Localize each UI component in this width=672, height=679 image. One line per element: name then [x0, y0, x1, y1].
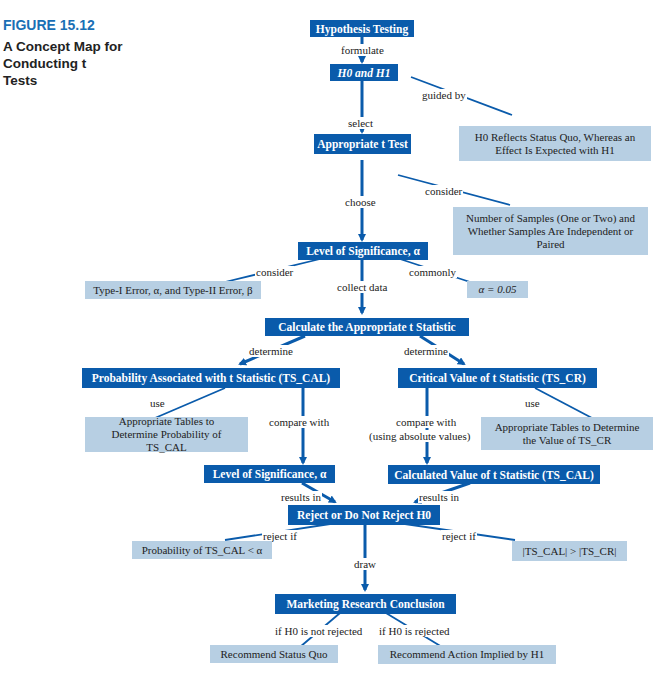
- edge-label-consider: consider: [424, 185, 463, 197]
- note-tables-value: Appropriate Tables to Determine the Valu…: [481, 417, 653, 450]
- edge-label-guided-by: guided by: [421, 89, 467, 101]
- edge-label-determine-left: determine: [248, 345, 294, 357]
- node-calculate-statistic: Calculate the Appropriate t Statistic: [265, 318, 469, 336]
- note-alpha-value: α = 0.05: [467, 281, 528, 298]
- connector-lines: [0, 0, 672, 679]
- note-tables-probability: Appropriate Tables to Determine Probabil…: [85, 417, 248, 452]
- node-appropriate-t-test: Appropriate t Test: [314, 134, 411, 154]
- edge-label-compare-with: compare with: [268, 416, 330, 428]
- edge-label-results-in-right: results in: [418, 491, 460, 503]
- note-status-quo-effect: H0 Reflects Status Quo, Whereas an Effec…: [459, 126, 651, 161]
- node-calculated-value: Calculated Value of t Statistic (TS_CAL): [388, 465, 600, 484]
- node-level-of-significance-2: Level of Significance, α: [204, 465, 335, 483]
- edge-label-collect-data: collect data: [336, 281, 388, 293]
- node-critical-value: Critical Value of t Statistic (TS_CR): [398, 368, 597, 388]
- edge-label-if-rejected: if H0 is rejected: [378, 625, 451, 637]
- node-hypothesis-testing: Hypothesis Testing: [310, 20, 414, 37]
- edge-label-use-left: use: [149, 397, 166, 409]
- node-probability-associated: Probability Associated with t Statistic …: [82, 368, 340, 388]
- note-number-of-samples: Number of Samples (One or Two) and Wheth…: [453, 207, 648, 255]
- edge-label-compare-with-abs: compare with: [395, 416, 457, 428]
- node-level-of-significance: Level of Significance, α: [298, 242, 428, 260]
- edge-label-commonly: commonly: [408, 266, 457, 278]
- edge-label-draw: draw: [353, 558, 377, 570]
- edge-label-reject-if-right: reject if: [441, 530, 477, 542]
- node-marketing-conclusion: Marketing Research Conclusion: [275, 594, 456, 614]
- note-probability-less-alpha: Probability of TS_CAL < α: [132, 541, 272, 559]
- edge-label-if-not-rejected: if H0 is not rejected: [274, 625, 363, 637]
- edge-label-choose: choose: [344, 196, 377, 208]
- edge-label-using-absolute: (using absolute values): [368, 430, 471, 442]
- edge-label-select: select: [347, 117, 374, 129]
- note-recommend-action: Recommend Action Implied by H1: [378, 645, 556, 664]
- node-h0-h1: H0 and H1: [330, 64, 398, 81]
- note-type-errors: Type-I Error, α, and Type-II Error, β: [85, 281, 261, 299]
- edge-label-determine-right: determine: [403, 345, 449, 357]
- edge-label-consider: consider: [255, 266, 294, 278]
- edge-label-formulate: formulate: [340, 44, 385, 56]
- note-recommend-status-quo: Recommend Status Quo: [210, 645, 338, 663]
- edge-label-results-in-left: results in: [280, 491, 322, 503]
- edge-label-use-right: use: [524, 397, 541, 409]
- node-reject-decision: Reject or Do Not Reject H0: [288, 505, 440, 525]
- note-abs-comparison: |TS_CAL| > |TS_CR|: [512, 541, 627, 561]
